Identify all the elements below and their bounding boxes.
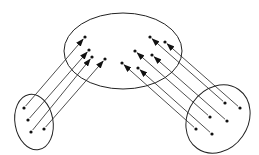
source-element-dot [26, 118, 29, 121]
mapping-arrow [154, 57, 225, 119]
mapping-arrow [140, 70, 210, 132]
target-element-dot [90, 55, 93, 58]
mapping-arrow [33, 59, 91, 130]
target-element-dot [103, 57, 106, 60]
target-element-dot [148, 35, 151, 38]
source-element-dot [223, 101, 226, 104]
mapping-arrow [30, 52, 87, 118]
set-mapping-diagram [0, 0, 259, 155]
target-element-dot [87, 48, 90, 51]
target-element-dot [136, 66, 139, 69]
mapping-arrow [152, 39, 223, 101]
mapping-arrow [124, 65, 194, 127]
mapping-arrows [26, 39, 239, 132]
source-element-dot [238, 106, 241, 109]
source-element-dot [194, 127, 197, 130]
mapping-arrow [137, 53, 208, 115]
source-element-dot [42, 127, 45, 130]
target-element-dot [150, 53, 153, 56]
element-dots [22, 35, 241, 135]
mapping-arrow [46, 61, 103, 127]
target-element-dot [83, 35, 86, 38]
target-element-dot [120, 61, 123, 64]
target-set-ellipse [64, 13, 182, 89]
source-element-dot [29, 130, 32, 133]
target-element-dot [163, 40, 166, 43]
target-element-dot [133, 49, 136, 52]
source-element-dot [208, 115, 211, 118]
source-element-dot [210, 132, 213, 135]
source-element-dot [22, 106, 25, 109]
source-element-dot [225, 119, 228, 122]
mapping-arrow [167, 44, 238, 106]
set-ellipses [10, 13, 259, 155]
